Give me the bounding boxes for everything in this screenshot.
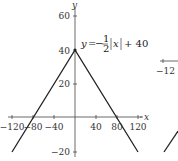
chart-canvas: y x 60 40 20 −20 −120 −80 −40 40 80 120 … [0, 0, 178, 161]
partial-graph-line [164, 131, 178, 152]
partial-tick-label: −12 − [156, 66, 178, 76]
eq-plus-40: + 40 [124, 38, 148, 49]
eq-denominator: 2 [103, 43, 109, 54]
x-tick-label-40: 40 [90, 122, 102, 132]
x-tick-label-neg40: −40 [45, 122, 64, 132]
eq-x: x [113, 38, 119, 49]
eq-y: y [80, 38, 87, 49]
y-tick-label-neg20: −20 [51, 147, 70, 157]
x-tick-label-neg80: −80 [24, 122, 43, 132]
y-axis-label: y [71, 0, 78, 10]
partial-second-chart: −12 − [156, 59, 178, 152]
y-tick-label-40: 40 [59, 46, 71, 56]
y-tick-label-60: 60 [59, 11, 71, 21]
y-tick-label-20: 20 [59, 79, 71, 89]
x-tick-label-neg120: −120 [0, 122, 25, 132]
x-axis-label: x [144, 112, 149, 122]
x-tick-label-120: 120 [129, 122, 146, 132]
equation-annotation: y = − 1 2 x + 40 [80, 33, 148, 54]
x-tick-label-80: 80 [111, 122, 123, 132]
vertex-point [73, 48, 76, 51]
